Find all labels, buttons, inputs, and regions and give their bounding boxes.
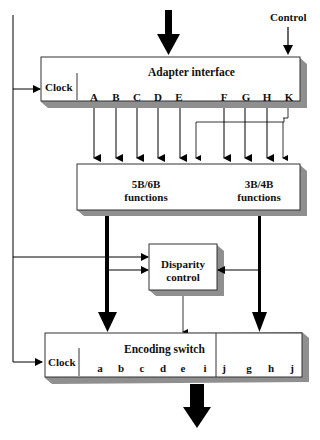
- adapter-pin-h: H: [263, 92, 272, 103]
- adapter-pin-k: K: [285, 92, 294, 103]
- encoding-pin-h: h: [268, 363, 274, 374]
- 5b6b-label: 5B/6B: [132, 179, 161, 190]
- encoding-switch-title: Encoding switch: [124, 344, 205, 356]
- disparity-control-label: control: [166, 272, 199, 283]
- 5b6b-functions-label: functions: [124, 192, 167, 203]
- encoding-pin-i: i: [203, 363, 206, 374]
- encoding-pin-j2: j: [290, 363, 294, 374]
- adapter-pin-b: B: [112, 92, 119, 103]
- 3b4b-label: 3B/4B: [245, 179, 274, 190]
- encoding-pin-j: j: [222, 363, 226, 374]
- encoding-pin-g: g: [246, 363, 252, 374]
- adapter-pin-a: A: [90, 92, 98, 103]
- 3b4b-functions-label: functions: [237, 192, 280, 203]
- disparity-label: Disparity: [161, 259, 205, 270]
- control-label: Control: [270, 12, 306, 23]
- encoding-clock-label: Clock: [48, 357, 76, 368]
- encoding-pin-a: a: [97, 363, 103, 374]
- adapter-pin-e: E: [175, 92, 182, 103]
- adapter-pin-d: D: [154, 92, 162, 103]
- adapter-pin-c: C: [133, 92, 141, 103]
- encoding-pin-e: e: [181, 363, 186, 374]
- encoding-pin-b: b: [118, 363, 124, 374]
- adapter-pin-g: G: [242, 92, 251, 103]
- adapter-interface-title: Adapter interface: [148, 67, 235, 79]
- encoder-diagram: Control Adapter interface Clock A B C D …: [0, 0, 320, 440]
- encoding-pin-d: d: [160, 363, 166, 374]
- adapter-pin-f: F: [221, 92, 228, 103]
- encoding-pin-c: c: [140, 363, 145, 374]
- adapter-clock-label: Clock: [45, 82, 73, 93]
